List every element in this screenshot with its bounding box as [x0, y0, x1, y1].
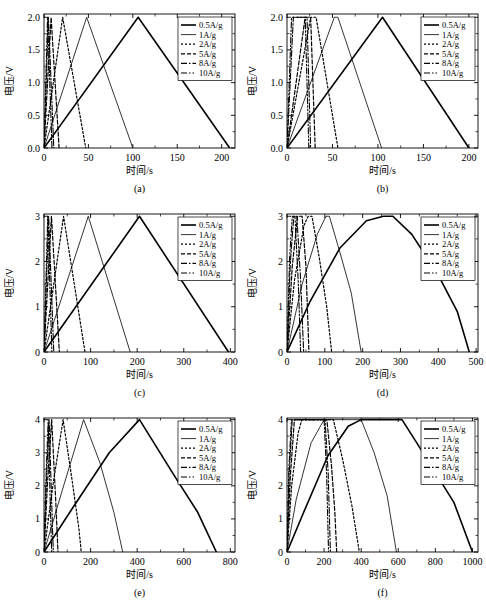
chart-panel-e: 020040060080001234时间/s电压/V(e)0.5A/g1A/g2…	[0, 404, 243, 604]
y-tick-label: 3	[35, 447, 40, 458]
x-tick-label: 0	[42, 356, 47, 367]
x-tick-label: 50	[327, 152, 337, 163]
legend-label: 1A/g	[199, 434, 217, 444]
y-axis-label: 电压/V	[3, 469, 15, 500]
x-tick-label: 400	[130, 556, 145, 567]
x-tick-label: 800	[428, 556, 443, 567]
y-tick-label: 0.0	[271, 143, 284, 154]
chart-svg-d: 01002003004005000123时间/s电压/V(d)0.5A/g1A/…	[243, 200, 486, 404]
x-axis-label: 时间/s	[369, 164, 396, 176]
series-line-2A-g	[287, 216, 332, 352]
chart-panel-f: 0200400600800100001234时间/s电压/V(f)0.5A/g1…	[243, 404, 486, 604]
legend-label: 0.5A/g	[199, 424, 223, 434]
legend-label: 5A/g	[442, 453, 460, 463]
y-tick-label: 3	[278, 447, 283, 458]
x-tick-label: 800	[223, 556, 238, 567]
series-line-5A-g	[287, 420, 337, 552]
y-tick-label: 2	[278, 256, 283, 267]
y-tick-label: 1.0	[271, 77, 284, 88]
y-tick-label: 1	[35, 301, 40, 312]
y-tick-label: 2	[35, 256, 40, 267]
legend-label: 2A/g	[442, 39, 460, 49]
y-axis-label: 电压/V	[246, 65, 258, 96]
x-tick-label: 200	[461, 152, 476, 163]
x-tick-label: 100	[83, 356, 98, 367]
x-tick-label: 0	[42, 152, 47, 163]
legend-label: 0.5A/g	[199, 220, 223, 230]
legend-label: 2A/g	[442, 443, 460, 453]
y-axis-label: 电压/V	[3, 65, 15, 96]
y-tick-label: 1	[35, 513, 40, 524]
x-axis-label: 时间/s	[369, 568, 396, 580]
legend-label: 1A/g	[442, 230, 460, 240]
legend-label: 8A/g	[199, 258, 217, 268]
x-tick-label: 100	[125, 152, 140, 163]
series-line-1A-g	[44, 420, 123, 552]
legend-label: 5A/g	[199, 49, 217, 59]
x-tick-label: 500	[469, 356, 484, 367]
y-tick-label: 0	[35, 547, 40, 558]
x-tick-label: 200	[355, 356, 370, 367]
x-tick-label: 200	[317, 556, 332, 567]
x-tick-label: 200	[130, 356, 145, 367]
chart-svg-e: 020040060080001234时间/s电压/V(e)0.5A/g1A/g2…	[0, 404, 243, 604]
x-tick-label: 200	[83, 556, 98, 567]
panel-caption: (b)	[377, 183, 389, 195]
y-tick-label: 1	[278, 301, 283, 312]
y-tick-label: 3	[35, 211, 40, 222]
series-line-1A-g	[44, 216, 130, 352]
legend-label: 1A/g	[442, 30, 460, 40]
y-tick-label: 2	[35, 480, 40, 491]
x-axis-label: 时间/s	[126, 568, 153, 580]
legend-label: 10A/g	[442, 472, 464, 482]
y-tick-label: 0.0	[28, 143, 41, 154]
legend-label: 5A/g	[199, 453, 217, 463]
panel-caption: (e)	[134, 587, 145, 599]
x-tick-label: 200	[214, 152, 229, 163]
series-line-2A-g	[287, 17, 338, 148]
y-tick-label: 2.0	[271, 12, 284, 23]
legend-label: 1A/g	[199, 230, 217, 240]
legend-label: 10A/g	[199, 472, 221, 482]
y-tick-label: 1.5	[271, 44, 284, 55]
y-tick-label: 2.0	[28, 12, 41, 23]
x-tick-label: 600	[391, 556, 406, 567]
panel-caption: (d)	[377, 387, 389, 399]
chart-panel-c: 01002003004000123时间/s电压/V(c)0.5A/g1A/g2A…	[0, 200, 243, 404]
legend-label: 8A/g	[442, 58, 460, 68]
legend-label: 0.5A/g	[442, 220, 466, 230]
x-tick-label: 150	[170, 152, 185, 163]
y-tick-label: 1.5	[28, 44, 41, 55]
x-tick-label: 400	[431, 356, 446, 367]
x-tick-label: 100	[317, 356, 332, 367]
y-tick-label: 1.0	[28, 77, 41, 88]
legend-label: 0.5A/g	[442, 20, 466, 30]
x-tick-label: 1000	[462, 556, 482, 567]
series-line-8A-g	[287, 420, 330, 552]
x-tick-label: 0	[285, 152, 290, 163]
chart-svg-b: 0501001502000.00.51.01.52.0时间/s电压/V(b)0.…	[243, 0, 486, 200]
legend-label: 8A/g	[442, 258, 460, 268]
y-tick-label: 4	[35, 414, 40, 425]
y-tick-label: 0	[35, 347, 40, 358]
chart-panel-d: 01002003004005000123时间/s电压/V(d)0.5A/g1A/…	[243, 200, 486, 404]
legend-label: 8A/g	[199, 58, 217, 68]
y-tick-label: 3	[278, 211, 283, 222]
x-tick-label: 150	[416, 152, 431, 163]
legend-label: 1A/g	[199, 30, 217, 40]
y-tick-label: 0.5	[28, 110, 41, 121]
y-axis-label: 电压/V	[246, 469, 258, 500]
x-tick-label: 300	[393, 356, 408, 367]
legend-label: 0.5A/g	[442, 424, 466, 434]
series-line-2A-g	[287, 420, 359, 552]
legend-label: 0.5A/g	[199, 20, 223, 30]
y-tick-label: 0	[278, 547, 283, 558]
x-tick-label: 100	[370, 152, 385, 163]
x-tick-label: 400	[354, 556, 369, 567]
legend-label: 10A/g	[199, 268, 221, 278]
x-tick-label: 400	[223, 356, 238, 367]
series-line-10A-g	[287, 420, 329, 552]
y-tick-label: 0	[278, 347, 283, 358]
legend-label: 5A/g	[442, 249, 460, 259]
legend-label: 8A/g	[442, 462, 460, 472]
